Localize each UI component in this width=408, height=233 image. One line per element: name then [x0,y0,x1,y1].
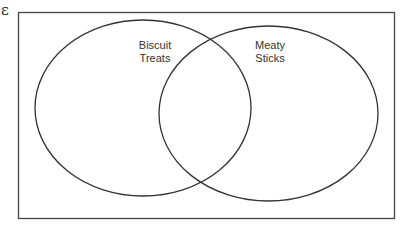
set-label-line: Biscuit [115,39,195,52]
universal-set-rectangle [19,13,395,219]
set-label-line: Sticks [230,52,310,65]
set-label-biscuit-treats: Biscuit Treats [115,39,195,65]
set-label-meaty-sticks: Meaty Sticks [230,39,310,65]
venn-diagram [0,0,408,233]
set-label-line: Meaty [230,39,310,52]
set-label-line: Treats [115,52,195,65]
